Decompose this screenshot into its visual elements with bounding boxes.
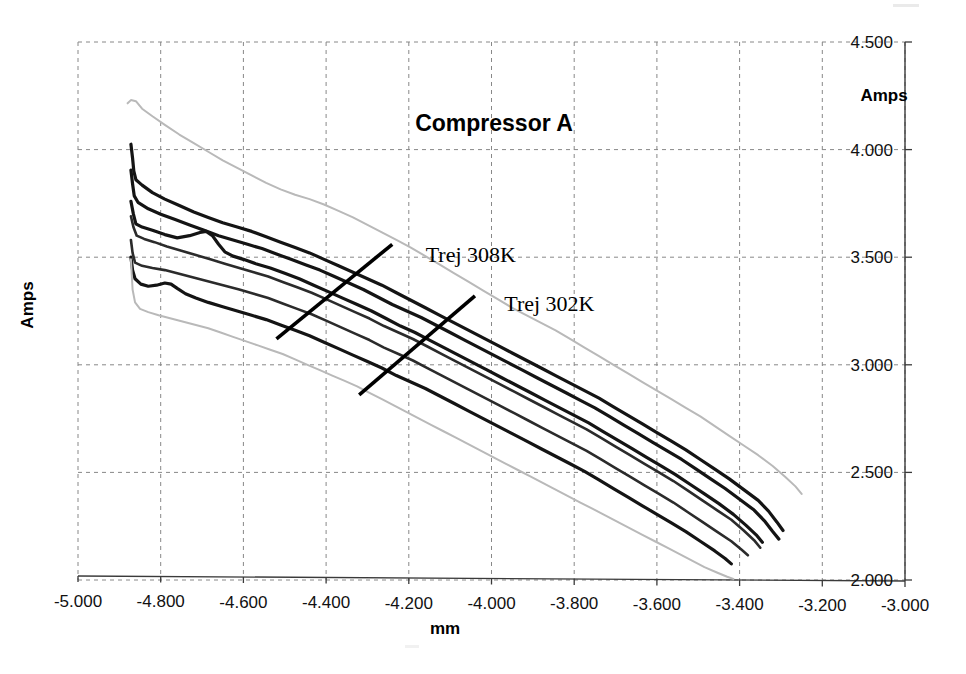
annotation-label: Trej 308K — [426, 242, 516, 267]
annotation-leader-line — [359, 296, 475, 395]
y-tick-label: 3.000 — [850, 356, 893, 375]
chart-figure: -5.000-4.800-4.600-4.400-4.200-4.000-3.8… — [0, 0, 966, 674]
y-axis-title-right: Amps — [860, 86, 907, 105]
annotation-label: Trej 302K — [504, 291, 594, 316]
x-tick-label: -4.200 — [385, 594, 433, 613]
y-tick-label: 2.000 — [850, 571, 893, 590]
x-tick-label: -3.400 — [715, 595, 763, 614]
series-line-trace-6-dark — [131, 257, 731, 564]
y-tick-label: 2.500 — [850, 463, 893, 482]
x-tick-label: -5.000 — [54, 592, 102, 611]
x-tick-label: -4.400 — [302, 593, 350, 612]
x-tick-label: -3.800 — [550, 594, 598, 613]
compressor-a-line-chart: -5.000-4.800-4.600-4.400-4.200-4.000-3.8… — [0, 0, 966, 674]
x-tick-label: -4.600 — [219, 593, 267, 612]
y-axis-title-left: Amps — [18, 281, 37, 328]
series-line-upper-envelope-light — [128, 100, 802, 494]
x-tick-label: -3.000 — [881, 596, 929, 615]
x-tick-label: -4.800 — [137, 592, 185, 611]
x-tick-label: -3.600 — [633, 595, 681, 614]
x-tick-label: -4.000 — [467, 594, 515, 613]
data-series-layer — [128, 100, 802, 579]
scan-specks — [405, 4, 919, 648]
y-tick-label: 4.500 — [850, 33, 893, 52]
x-tick-labels: -5.000-4.800-4.600-4.400-4.200-4.000-3.8… — [54, 592, 929, 615]
y-tick-label: 3.500 — [850, 248, 893, 267]
y-tick-labels: 4.5004.0003.5003.0002.5002.000 — [850, 33, 893, 590]
x-tick-label: -3.200 — [798, 596, 846, 615]
x-axis-title: mm — [430, 619, 460, 638]
y-tick-label: 4.000 — [850, 141, 893, 160]
series-line-trace-5-dark — [131, 240, 748, 555]
chart-title: Compressor A — [415, 110, 573, 136]
